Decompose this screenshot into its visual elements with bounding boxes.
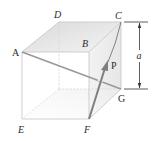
vertex-label-c: C [115,10,122,21]
cube-diagram: A B C D E F G P a [0,0,154,141]
vertex-label-e: E [17,124,24,135]
vertex-label-g: G [118,93,125,104]
vertex-label-a: A [12,47,20,58]
vertex-label-d: D [53,9,62,20]
dimension-arrow-down-icon [138,83,141,89]
force-label-p: P [111,60,117,71]
vertex-label-b: B [82,38,88,49]
vertex-label-f: F [83,124,91,135]
dimension-label-a: a [137,50,142,61]
dimension-arrow-up-icon [138,23,141,29]
bottom-face [22,89,121,119]
